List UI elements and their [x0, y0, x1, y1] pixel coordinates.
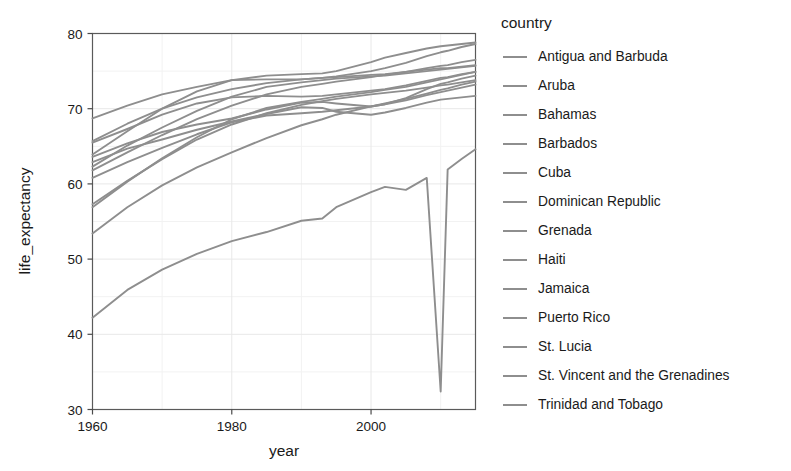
legend-item-label: Aruba [538, 78, 575, 94]
y-tick-label: 70 [67, 102, 82, 117]
figure-container: 196019802000 304050607080 year life_expe… [0, 0, 791, 471]
legend-item[interactable]: Aruba [499, 71, 789, 100]
legend-item-label: Haiti [538, 252, 566, 268]
y-tick-label: 60 [67, 177, 82, 192]
legend: country Antigua and BarbudaArubaBahamasB… [499, 14, 789, 434]
legend-item[interactable]: Grenada [499, 216, 789, 245]
legend-item-label: Grenada [538, 223, 592, 239]
legend-item-label: Puerto Rico [538, 310, 610, 326]
legend-item[interactable]: Trinidad and Tobago [499, 390, 789, 419]
legend-title: country [501, 14, 789, 32]
legend-swatch-line-icon [503, 317, 527, 319]
legend-item[interactable]: Jamaica [499, 274, 789, 303]
legend-item-label: Trinidad and Tobago [538, 397, 663, 413]
legend-swatch-line-icon [503, 230, 527, 232]
legend-item-label: Jamaica [538, 281, 589, 297]
legend-item-label: Bahamas [538, 107, 596, 123]
legend-item[interactable]: Antigua and Barbuda [499, 42, 789, 71]
series-lines [93, 43, 476, 392]
legend-item-label: St. Vincent and the Grenadines [538, 368, 730, 384]
legend-swatch-line-icon [503, 404, 527, 406]
legend-swatch-line-icon [503, 346, 527, 348]
y-tick-label: 50 [67, 252, 82, 267]
legend-item-list: Antigua and BarbudaArubaBahamasBarbadosC… [499, 42, 789, 419]
x-tick-label: 2000 [356, 419, 386, 434]
legend-swatch-line-icon [503, 288, 527, 290]
y-axis-label: life_expectancy [16, 167, 33, 274]
x-tick-label: 1960 [77, 419, 107, 434]
x-axis-label: year [269, 442, 299, 459]
legend-item[interactable]: St. Lucia [499, 332, 789, 361]
legend-item-label: Cuba [538, 165, 571, 181]
legend-swatch-line-icon [503, 85, 527, 87]
series-line [93, 149, 476, 391]
legend-item[interactable]: St. Vincent and the Grenadines [499, 361, 789, 390]
y-tick-label: 40 [67, 327, 82, 342]
legend-item[interactable]: Puerto Rico [499, 303, 789, 332]
x-tick-label: 1980 [217, 419, 247, 434]
legend-swatch-line-icon [503, 114, 527, 116]
legend-item[interactable]: Barbados [499, 129, 789, 158]
legend-item-label: Barbados [538, 136, 597, 152]
legend-item-label: St. Lucia [538, 339, 592, 355]
y-tick-label: 30 [67, 403, 82, 418]
legend-item-label: Dominican Republic [538, 194, 661, 210]
y-tick-labels: 304050607080 [67, 27, 82, 418]
legend-swatch-line-icon [503, 143, 527, 145]
legend-item[interactable]: Cuba [499, 158, 789, 187]
legend-item[interactable]: Bahamas [499, 100, 789, 129]
legend-item[interactable]: Haiti [499, 245, 789, 274]
y-tick-label: 80 [67, 27, 82, 42]
legend-swatch-line-icon [503, 259, 527, 261]
legend-swatch-line-icon [503, 201, 527, 203]
x-tick-labels: 196019802000 [77, 419, 386, 434]
legend-item[interactable]: Dominican Republic [499, 187, 789, 216]
series-line [93, 65, 476, 141]
legend-swatch-line-icon [503, 172, 527, 174]
legend-swatch-line-icon [503, 56, 527, 58]
legend-swatch-line-icon [503, 375, 527, 377]
legend-item-label: Antigua and Barbuda [538, 49, 668, 65]
